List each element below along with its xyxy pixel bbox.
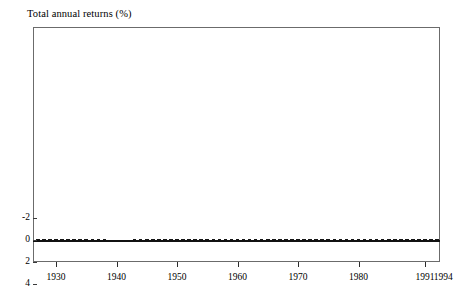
x-axis-tick xyxy=(238,262,239,267)
x-axis-tick xyxy=(298,262,299,267)
chart-title: Total annual returns (%) xyxy=(27,7,132,20)
y-axis-label-text: -2 xyxy=(2,213,30,223)
y-axis-label: 2 xyxy=(0,257,30,267)
scan-fringe xyxy=(0,288,456,292)
x-axis-label: 1960 xyxy=(228,272,247,283)
y-axis-tick xyxy=(33,240,37,241)
bar-chart-figure: Total annual returns (%) -20246810121416… xyxy=(0,0,456,292)
y-axis-label-text: 2 xyxy=(2,257,30,267)
x-axis-tick xyxy=(56,262,57,267)
x-axis-label: 1970 xyxy=(289,272,308,283)
y-axis-tick xyxy=(33,262,37,263)
x-axis-tick xyxy=(177,262,178,267)
y-axis-label: -2 xyxy=(0,213,30,223)
x-axis-label: 1980 xyxy=(349,272,368,283)
y-axis-tick xyxy=(33,284,37,285)
x-axis-tick xyxy=(425,262,426,267)
x-axis-label: 1950 xyxy=(168,272,187,283)
x-axis-label: 1994 xyxy=(434,272,453,283)
y-axis-tick xyxy=(33,218,37,219)
x-axis-label: 1940 xyxy=(107,272,126,283)
y-axis-label-text: 0 xyxy=(2,235,30,245)
x-axis-tick xyxy=(117,262,118,267)
plot-area xyxy=(34,28,439,261)
x-axis-label: 1930 xyxy=(47,272,66,283)
y-axis-label: 0 xyxy=(0,235,30,245)
x-axis-label: 1991 xyxy=(416,272,435,283)
x-axis-tick xyxy=(359,262,360,267)
zero-baseline xyxy=(33,240,440,242)
